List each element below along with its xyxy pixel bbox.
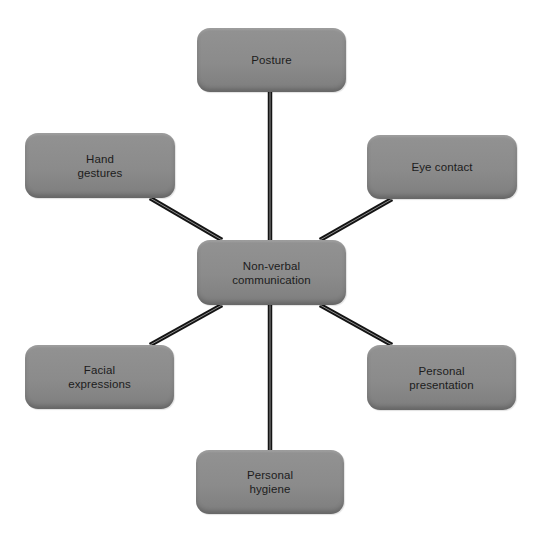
node-personal-presentation: Personal presentation bbox=[367, 345, 516, 410]
mind-map-diagram: Posture Hand gestures Eye contact Facial… bbox=[0, 0, 539, 534]
node-label: Posture bbox=[251, 53, 291, 67]
connector-facial-expressions bbox=[150, 305, 222, 345]
node-hand-gestures: Hand gestures bbox=[25, 133, 175, 198]
connector-eye-contact bbox=[320, 199, 392, 240]
node-label: Personal presentation bbox=[409, 364, 474, 392]
center-node-label: Non-verbal communication bbox=[232, 259, 311, 287]
node-eye-contact: Eye contact bbox=[367, 135, 517, 199]
node-label: Eye contact bbox=[411, 160, 472, 174]
node-center-non-verbal-communication: Non-verbal communication bbox=[197, 240, 346, 305]
node-label: Personal hygiene bbox=[247, 468, 293, 496]
node-label: Facial expressions bbox=[68, 363, 130, 391]
node-label: Hand gestures bbox=[78, 152, 123, 180]
node-personal-hygiene: Personal hygiene bbox=[196, 450, 344, 514]
connector-personal-presentation bbox=[320, 305, 392, 345]
connector-hand-gestures bbox=[150, 198, 222, 240]
node-facial-expressions: Facial expressions bbox=[25, 345, 174, 409]
node-posture: Posture bbox=[197, 28, 346, 92]
